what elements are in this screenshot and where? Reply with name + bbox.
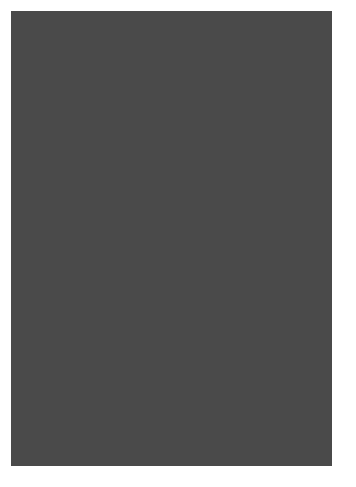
knitting-chart-grid — [11, 11, 332, 466]
